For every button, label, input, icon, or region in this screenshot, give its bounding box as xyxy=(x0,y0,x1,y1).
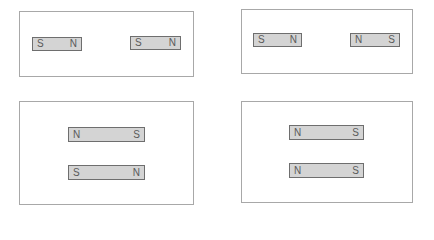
pole-label: N xyxy=(169,38,176,48)
pole-label: S xyxy=(37,39,44,49)
pole-label: S xyxy=(352,128,359,138)
bar-magnet: S N xyxy=(130,36,181,50)
pole-label: S xyxy=(388,35,395,45)
bar-magnet: S N xyxy=(32,37,82,51)
bar-magnet: N S xyxy=(289,125,364,140)
pole-label: N xyxy=(133,168,140,178)
pole-label: N xyxy=(73,130,80,140)
pole-label: S xyxy=(352,166,359,176)
pole-label: S xyxy=(135,38,142,48)
pole-label: S xyxy=(258,35,265,45)
panel-bottom-left xyxy=(19,101,194,205)
pole-label: N xyxy=(355,35,362,45)
pole-label: N xyxy=(294,128,301,138)
pole-label: N xyxy=(290,35,297,45)
bar-magnet: N S xyxy=(289,163,364,178)
pole-label: S xyxy=(73,168,80,178)
bar-magnet: S N xyxy=(68,165,145,180)
bar-magnet: S N xyxy=(253,33,302,47)
pole-label: N xyxy=(294,166,301,176)
bar-magnet: N S xyxy=(68,127,145,142)
panel-bottom-right xyxy=(241,101,413,203)
bar-magnet: N S xyxy=(350,33,400,47)
pole-label: N xyxy=(70,39,77,49)
pole-label: S xyxy=(133,130,140,140)
